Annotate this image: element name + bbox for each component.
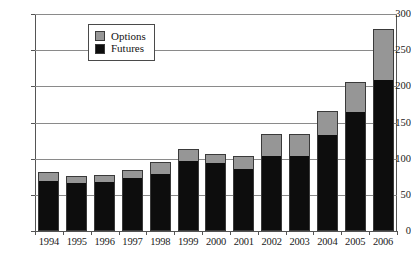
x-tick-mark bbox=[174, 231, 175, 235]
x-tick-label: 2006 bbox=[370, 236, 397, 247]
x-tick-mark bbox=[63, 231, 64, 235]
bar-segment-futures bbox=[39, 181, 58, 230]
stacked-bar-chart: 300250200150100500 199419951996199719981… bbox=[0, 0, 411, 266]
bar-stack bbox=[94, 175, 115, 231]
x-tick-label: 2004 bbox=[314, 236, 341, 247]
chart-legend: Options Futures bbox=[88, 24, 155, 61]
bar-segment-options bbox=[234, 157, 253, 169]
bar-segment-futures bbox=[234, 169, 253, 230]
bar-segment-options bbox=[123, 171, 142, 178]
x-tick-mark bbox=[313, 231, 314, 235]
bar-group bbox=[286, 14, 313, 231]
bar-segment-options bbox=[39, 173, 58, 181]
bar-stack bbox=[261, 134, 282, 231]
bar-segment-futures bbox=[151, 174, 170, 230]
x-tick-label: 1996 bbox=[91, 236, 118, 247]
bar-segment-options bbox=[151, 163, 170, 173]
bar-group bbox=[314, 14, 341, 231]
bar-segment-futures bbox=[374, 80, 393, 230]
bar-stack bbox=[317, 111, 338, 231]
bar-segment-futures bbox=[318, 135, 337, 230]
x-tick-mark bbox=[258, 231, 259, 235]
x-tick-label: 1994 bbox=[35, 236, 62, 247]
bar-segment-options bbox=[206, 155, 225, 164]
bar-segment-futures bbox=[123, 178, 142, 230]
bar-group bbox=[202, 14, 229, 231]
bar-segment-options bbox=[262, 135, 281, 155]
legend-label-futures: Futures bbox=[111, 43, 144, 54]
bar-stack bbox=[150, 162, 171, 231]
x-tick-mark bbox=[341, 231, 342, 235]
x-tick-mark bbox=[286, 231, 287, 235]
x-tick-mark bbox=[119, 231, 120, 235]
bar-segment-futures bbox=[206, 163, 225, 230]
bar-segment-options bbox=[318, 112, 337, 135]
bar-group bbox=[175, 14, 202, 231]
bar-stack bbox=[178, 149, 199, 231]
legend-item-options: Options bbox=[95, 31, 146, 42]
x-tick-mark bbox=[91, 231, 92, 235]
x-tick-label: 2003 bbox=[286, 236, 313, 247]
bar-segment-options bbox=[346, 83, 365, 112]
x-tick-label: 1999 bbox=[175, 236, 202, 247]
legend-item-futures: Futures bbox=[95, 43, 146, 54]
bar-segment-futures bbox=[67, 183, 86, 230]
bar-group bbox=[63, 14, 90, 231]
bar-segment-futures bbox=[346, 112, 365, 230]
x-tick-label: 2005 bbox=[342, 236, 369, 247]
bar-segment-futures bbox=[95, 182, 114, 230]
bar-stack bbox=[373, 29, 394, 231]
bar-group bbox=[35, 14, 62, 231]
bar-group bbox=[342, 14, 369, 231]
x-tick-label: 2001 bbox=[230, 236, 257, 247]
legend-label-options: Options bbox=[111, 31, 146, 42]
bar-stack bbox=[38, 172, 59, 231]
bar-group bbox=[370, 14, 397, 231]
bar-stack bbox=[205, 154, 226, 231]
bar-stack bbox=[289, 134, 310, 231]
bar-segment-options bbox=[374, 30, 393, 80]
x-tick-label: 1997 bbox=[119, 236, 146, 247]
x-tick-mark bbox=[202, 231, 203, 235]
legend-swatch-options-icon bbox=[95, 31, 105, 41]
x-tick-label: 2002 bbox=[258, 236, 285, 247]
bar-stack bbox=[122, 170, 143, 231]
x-tick-mark bbox=[230, 231, 231, 235]
bar-segment-options bbox=[179, 150, 198, 161]
x-tick-label: 2000 bbox=[202, 236, 229, 247]
bar-segment-futures bbox=[262, 156, 281, 231]
x-tick-label: 1995 bbox=[63, 236, 90, 247]
x-tick-mark bbox=[369, 231, 370, 235]
x-tick-mark bbox=[397, 231, 398, 235]
x-tick-label: 1998 bbox=[147, 236, 174, 247]
x-axis-labels: 1994199519961997199819992000200120022003… bbox=[35, 236, 397, 247]
bar-stack bbox=[345, 82, 366, 231]
bar-stack bbox=[233, 156, 254, 231]
legend-swatch-futures-icon bbox=[95, 44, 105, 54]
bar-stack bbox=[66, 176, 87, 231]
x-tick-mark bbox=[35, 231, 36, 235]
bar-segment-options bbox=[290, 135, 309, 155]
x-tick-mark bbox=[146, 231, 147, 235]
bar-group bbox=[230, 14, 257, 231]
bar-segment-futures bbox=[179, 161, 198, 230]
bar-group bbox=[258, 14, 285, 231]
bar-segment-futures bbox=[290, 156, 309, 231]
